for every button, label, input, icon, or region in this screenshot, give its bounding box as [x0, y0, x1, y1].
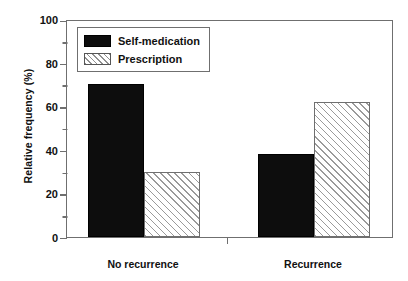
bar-self-medication-no-recurrence [88, 84, 144, 237]
x-tick-group-separator [227, 237, 228, 244]
y-tick-major-80 [60, 64, 67, 65]
y-axis-tick-labels: 0 20 40 60 80 100 [14, 20, 58, 238]
y-tick-major-40 [60, 151, 67, 152]
bar-prescription-no-recurrence [144, 172, 200, 237]
y-tick-minor-50 [63, 129, 68, 130]
y-tick-label-20: 20 [18, 188, 58, 200]
y-tick-major-20 [60, 194, 67, 195]
y-tick-major-100 [60, 21, 67, 22]
legend-label-self-medication: Self-medication [118, 35, 200, 47]
y-tick-label-0: 0 [18, 232, 58, 244]
y-tick-label-40: 40 [18, 145, 58, 157]
y-tick-label-60: 60 [18, 101, 58, 113]
chart-figure: Relative frequency (%) 0 20 40 60 80 100 [0, 0, 408, 281]
x-tick-label-recurrence: Recurrence [284, 258, 342, 270]
legend-item-self-medication: Self-medication [84, 33, 200, 48]
y-tick-label-100: 100 [18, 14, 58, 26]
legend-item-prescription: Prescription [84, 51, 200, 66]
y-tick-major-60 [60, 107, 67, 108]
x-tick-label-no-recurrence: No recurrence [107, 258, 178, 270]
y-tick-minor-30 [63, 173, 68, 174]
legend-swatch-hatch-icon [84, 53, 111, 65]
y-tick-major-0 [60, 238, 67, 239]
bar-self-medication-recurrence [258, 154, 314, 237]
legend: Self-medication Prescription [77, 27, 210, 72]
legend-label-prescription: Prescription [118, 53, 182, 65]
y-tick-minor-10 [63, 216, 68, 217]
legend-swatch-solid-icon [84, 35, 111, 47]
y-tick-label-80: 80 [18, 58, 58, 70]
y-tick-minor-90 [63, 42, 68, 43]
y-tick-minor-70 [63, 85, 68, 86]
plot-area: Self-medication Prescription [66, 20, 393, 238]
bar-prescription-recurrence [314, 102, 370, 237]
